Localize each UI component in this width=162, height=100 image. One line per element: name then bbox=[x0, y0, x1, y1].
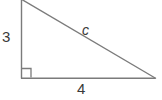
hypotenuse-label: c bbox=[82, 23, 89, 37]
right-angle-icon bbox=[22, 69, 31, 78]
hypotenuse-line bbox=[21, 0, 156, 79]
vertical-leg-label: 3 bbox=[2, 29, 10, 44]
horizontal-leg-label: 4 bbox=[77, 81, 85, 96]
right-triangle-figure: 3 4 c bbox=[0, 0, 162, 100]
